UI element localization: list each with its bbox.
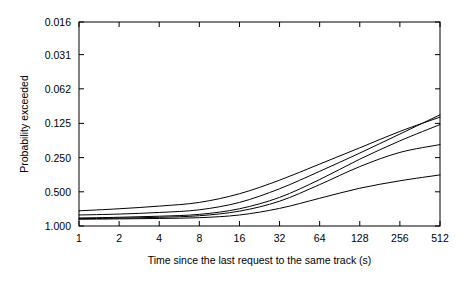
x-tick-label-0: 1 [76, 232, 82, 244]
y-tick-label-6: 1.000 [45, 220, 71, 232]
y-tick-label-1: 0.031 [45, 49, 71, 61]
y-tick-label-4: 0.250 [45, 152, 71, 164]
x-tick-label-5: 32 [274, 232, 286, 244]
chart-canvas: 1248163264128256512 0.0160.0310.0620.125… [0, 0, 470, 281]
y-tick-label-5: 0.500 [45, 186, 71, 198]
x-tick-label-4: 16 [234, 232, 246, 244]
x-axis-title: Time since the last request to the same … [148, 254, 372, 266]
x-tick-label-3: 8 [196, 232, 202, 244]
y-tick-label-2: 0.062 [45, 83, 71, 95]
x-tick-label-2: 4 [156, 232, 162, 244]
x-tick-label-6: 64 [314, 232, 326, 244]
y-tick-label-0: 0.016 [45, 16, 71, 28]
x-tick-label-1: 2 [116, 232, 122, 244]
chart-figure: 1248163264128256512 0.0160.0310.0620.125… [0, 0, 470, 281]
x-tick-label-8: 256 [391, 232, 409, 244]
y-axis-title: Probability exceeded [18, 75, 30, 173]
x-tick-label-9: 512 [431, 232, 449, 244]
y-tick-label-3: 0.125 [45, 117, 71, 129]
x-tick-label-7: 128 [351, 232, 369, 244]
